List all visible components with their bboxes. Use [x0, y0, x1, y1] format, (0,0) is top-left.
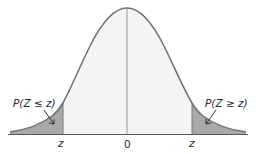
center-zero-label: 0 [124, 138, 131, 150]
left-tail-label: P(Z ≤ z) [13, 97, 56, 109]
right-tail-label: P(Z ≥ z) [205, 97, 248, 109]
left-z-label: z [57, 137, 64, 149]
normal-distribution-diagram: P(Z ≤ z) P(Z ≥ z) z 0 z [0, 0, 256, 154]
normal-curve-svg: P(Z ≤ z) P(Z ≥ z) z 0 z [0, 0, 256, 154]
right-z-label: z [188, 137, 195, 149]
